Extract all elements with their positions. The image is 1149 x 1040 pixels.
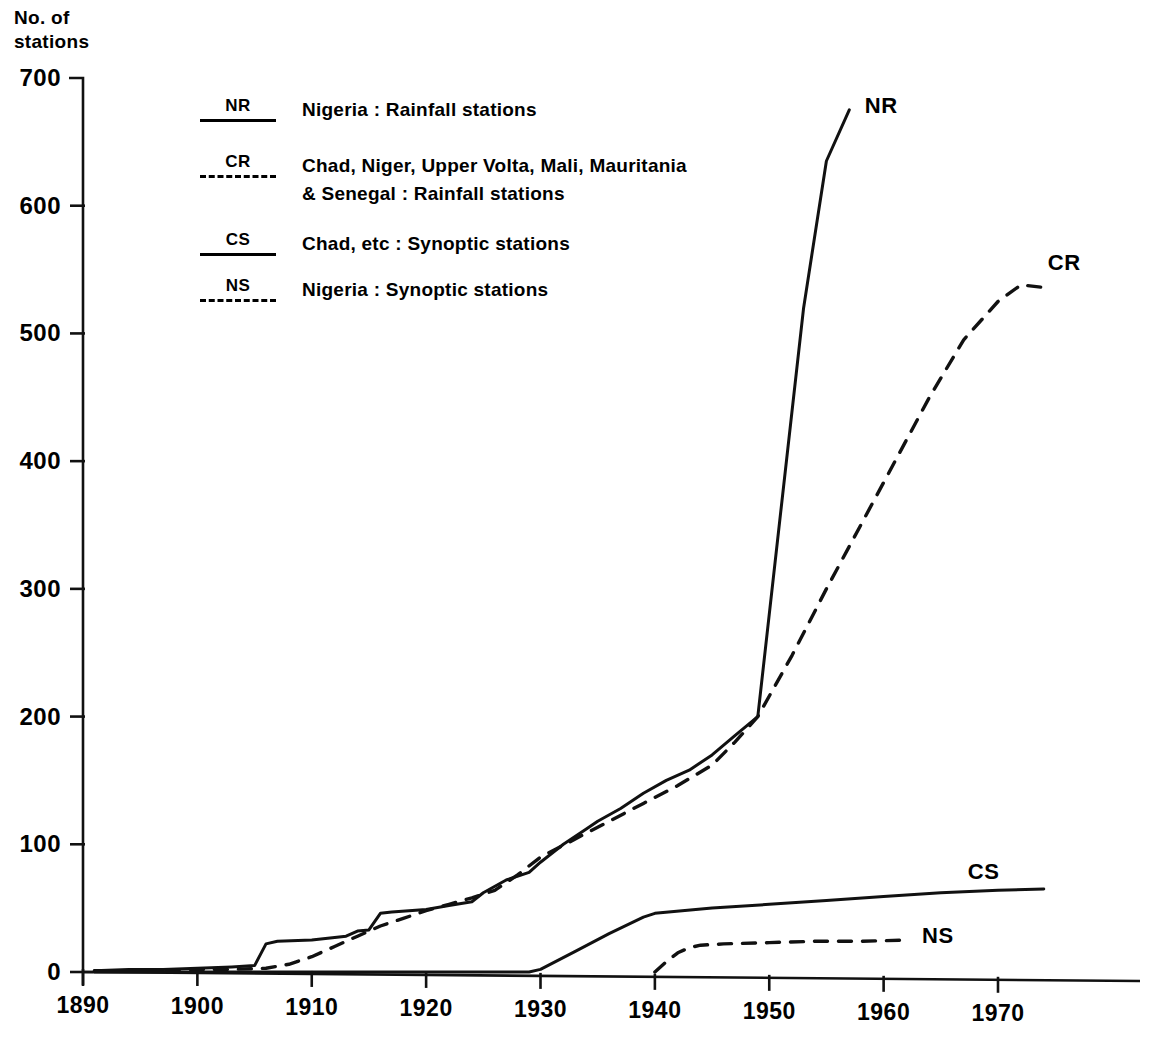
legend-item-cr[interactable]: CRChad, Niger, Upper Volta, Mali, Maurit… xyxy=(196,152,687,207)
legend-key-label: CS xyxy=(196,230,280,250)
x-tick-label: 1940 xyxy=(628,997,681,1024)
x-tick-label: 1950 xyxy=(743,998,796,1025)
series-tag-cr: CR xyxy=(1048,250,1081,276)
legend-key-label: CR xyxy=(196,152,280,172)
legend-item-ns[interactable]: NSNigeria : Synoptic stations xyxy=(196,276,548,310)
series-tag-nr: NR xyxy=(865,93,898,119)
y-tick-label: 300 xyxy=(0,575,61,603)
legend-item-text: Nigeria : Synoptic stations xyxy=(280,276,548,304)
legend-item-text: Chad, etc : Synoptic stations xyxy=(280,230,570,258)
y-tick-label: 200 xyxy=(0,703,61,731)
y-axis-spine xyxy=(69,78,83,986)
legend-key-cr: CR xyxy=(196,152,280,186)
series-tag-ns: NS xyxy=(922,923,954,949)
legend-key-line-dashed xyxy=(200,175,276,178)
legend-key-line-solid xyxy=(200,253,276,256)
chart-figure: No. of stations 0100200300400500600700 1… xyxy=(0,0,1149,1040)
y-tick-label: 100 xyxy=(0,830,61,858)
x-tick-label: 1890 xyxy=(56,992,109,1019)
legend-item-nr[interactable]: NRNigeria : Rainfall stations xyxy=(196,96,537,130)
legend-key-line-solid xyxy=(200,119,276,122)
x-tick-label: 1920 xyxy=(400,995,453,1022)
legend-key-label: NR xyxy=(196,96,280,116)
legend-key-line-dashed xyxy=(200,299,276,302)
series-tag-cs: CS xyxy=(968,859,1000,885)
x-tick-label: 1900 xyxy=(171,993,224,1020)
y-tick-label: 600 xyxy=(0,192,61,220)
y-tick-label: 700 xyxy=(0,64,61,92)
series-line-cs xyxy=(94,889,1043,972)
legend-key-ns: NS xyxy=(196,276,280,310)
y-tick-label: 0 xyxy=(0,958,61,986)
y-tick-label: 400 xyxy=(0,447,61,475)
legend-item-text: Chad, Niger, Upper Volta, Mali, Mauritan… xyxy=(280,152,687,207)
legend-item-text: Nigeria : Rainfall stations xyxy=(280,96,537,124)
x-tick-label: 1970 xyxy=(971,1000,1024,1027)
x-tick-label: 1960 xyxy=(857,999,910,1026)
series-line-ns xyxy=(655,940,907,972)
legend-key-label: NS xyxy=(196,276,280,296)
legend-item-cs[interactable]: CSChad, etc : Synoptic stations xyxy=(196,230,570,264)
legend-key-nr: NR xyxy=(196,96,280,130)
x-tick-label: 1910 xyxy=(285,994,338,1021)
x-tick-label: 1930 xyxy=(514,996,567,1023)
legend-key-cs: CS xyxy=(196,230,280,264)
series-line-cr xyxy=(94,285,1043,971)
y-tick-label: 500 xyxy=(0,319,61,347)
axes-group xyxy=(69,78,1140,993)
